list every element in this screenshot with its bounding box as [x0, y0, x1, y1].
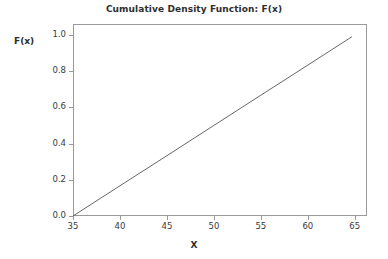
x-tick-label: 55 [241, 221, 281, 231]
y-tick-mark [69, 144, 73, 145]
y-tick-label: 0.2 [52, 174, 66, 185]
y-tick-mark [69, 180, 73, 181]
y-tick-label: 0.6 [52, 101, 66, 112]
chart-title: Cumulative Density Function: F(x) [0, 4, 388, 14]
x-tick-mark [73, 216, 74, 220]
x-tick-label: 50 [194, 221, 234, 231]
x-tick-mark [167, 216, 168, 220]
x-tick-mark [120, 216, 121, 220]
y-tick-label: 0.0 [52, 210, 66, 221]
x-tick-mark [261, 216, 262, 220]
plot-area [73, 24, 367, 216]
x-tick-mark [214, 216, 215, 220]
chart-container: Cumulative Density Function: F(x) F(x) 3… [0, 0, 388, 259]
x-tick-label: 35 [53, 221, 93, 231]
y-tick-mark [69, 216, 73, 217]
y-tick-label: 0.8 [52, 65, 66, 76]
y-axis-label: F(x) [14, 36, 34, 46]
x-axis-label: X [0, 240, 388, 250]
x-tick-label: 45 [147, 221, 187, 231]
y-tick-mark [69, 107, 73, 108]
y-tick-mark [69, 35, 73, 36]
x-tick-label: 60 [288, 221, 328, 231]
y-tick-label: 0.4 [52, 138, 66, 149]
y-tick-label: 1.0 [52, 29, 66, 40]
cdf-line-series [73, 37, 352, 216]
x-tick-mark [355, 216, 356, 220]
x-tick-label: 40 [100, 221, 140, 231]
x-tick-mark [308, 216, 309, 220]
x-tick-label: 65 [335, 221, 375, 231]
y-tick-mark [69, 71, 73, 72]
